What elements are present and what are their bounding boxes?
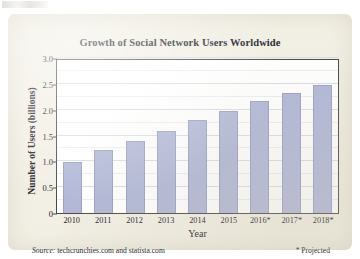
x-axis-title: Year [56, 228, 339, 239]
figure: Growth of Social Network Users Worldwide… [0, 0, 360, 259]
chart-title: Growth of Social Network Users Worldwide [8, 37, 352, 48]
bar [63, 162, 82, 213]
bar [126, 141, 145, 213]
bar [250, 101, 269, 213]
bar [94, 150, 113, 213]
y-tick-label: 0.5 [27, 183, 53, 193]
bar-series [57, 60, 338, 213]
bar [282, 93, 301, 213]
y-tick-label: 1.5 [27, 132, 53, 142]
source-note: Source: techcrunchies.com and statista.c… [32, 246, 165, 255]
y-tick-label: 0 [27, 209, 53, 219]
bar [313, 85, 332, 213]
scan-artifact [2, 1, 48, 8]
plot-area [56, 59, 339, 214]
bar [188, 120, 207, 213]
chart-card: Growth of Social Network Users Worldwide… [8, 14, 352, 250]
bar [157, 131, 176, 213]
gridline [57, 57, 338, 58]
bar [219, 111, 238, 213]
source-label: Source: [32, 246, 55, 255]
y-tick-label: 2.5 [27, 80, 53, 90]
y-tick-label: 2.0 [27, 106, 53, 116]
y-axis-ticks: 00.51.01.52.02.53.0 [16, 59, 53, 214]
y-tick-label: 3.0 [27, 54, 53, 64]
projected-note: * Projected [296, 246, 330, 255]
source-value: techcrunchies.com and statista.com [57, 246, 165, 255]
y-tick-label: 1.0 [27, 157, 53, 167]
